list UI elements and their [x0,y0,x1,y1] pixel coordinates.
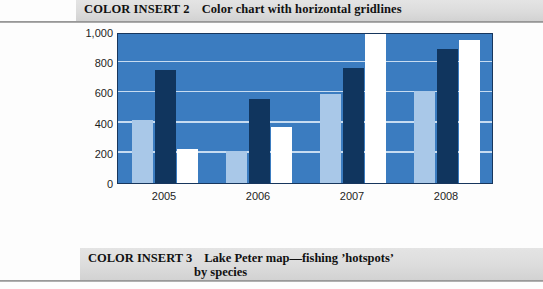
divider-bottom [0,280,543,282]
page-root: COLOR INSERT 2Color chart with horizonta… [0,0,543,289]
bar [132,120,153,183]
bar-chart: 02004006008001,000 2005200620072008 [0,24,543,206]
bar [155,70,176,183]
bar [177,149,198,183]
plot-area [117,33,493,184]
bar [271,127,292,183]
caption-bottom-line2: by species [194,265,543,279]
bar [437,49,458,183]
x-axis-tick-label: 2007 [340,190,364,202]
y-axis-tick-label: 200 [65,148,113,160]
caption-top-insert-id: COLOR INSERT 2 [84,2,190,16]
x-axis-tick-label: 2006 [246,190,270,202]
caption-top: COLOR INSERT 2Color chart with horizonta… [76,0,543,21]
bar [459,40,480,183]
caption-bottom-insert-id: COLOR INSERT 3 [88,251,192,265]
bar [365,34,386,183]
x-axis-tick-label: 2008 [434,190,458,202]
caption-top-text: Color chart with horizontal gridlines [202,2,402,16]
y-axis-tick-label: 400 [65,118,113,130]
y-axis-tick-label: 1,000 [65,27,113,39]
caption-bottom-line1: Lake Peter map—fishing ʼhotspotsʼ [204,251,394,265]
bar [414,91,435,183]
bar [226,151,247,183]
y-axis-ticks: 02004006008001,000 [61,33,113,184]
bar [343,68,364,183]
bar [320,94,341,183]
bar [249,99,270,183]
y-axis-tick-label: 600 [65,87,113,99]
bars-layer [118,34,492,183]
y-axis-tick-label: 0 [65,178,113,190]
y-axis-tick-label: 800 [65,57,113,69]
caption-bottom: COLOR INSERT 3Lake Peter map—fishing ʼho… [80,248,543,280]
x-axis-tick-label: 2005 [152,190,176,202]
divider-top [0,21,543,23]
